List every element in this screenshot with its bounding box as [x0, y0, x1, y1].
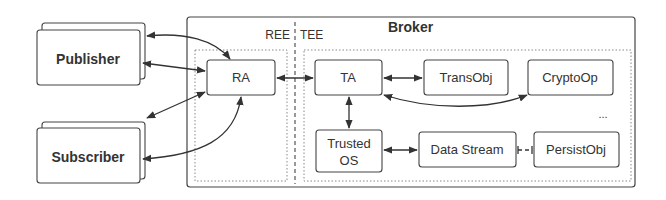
tee-label: TEE	[300, 28, 323, 42]
persistobj-node: PersistObj	[534, 132, 619, 167]
cryptoop-label: CryptoOp	[542, 70, 598, 85]
ta-node: TA	[315, 60, 382, 95]
edge-subscriber-ra	[147, 92, 205, 118]
edge-publisher-ra	[143, 63, 205, 71]
trusted-os-label-line1: Trusted	[327, 136, 371, 151]
data-stream-label: Data Stream	[431, 142, 504, 157]
publisher-node: Publisher	[37, 23, 145, 85]
subscriber-node: Subscriber	[37, 122, 145, 183]
edge-subscriber-ra-curved	[143, 97, 241, 159]
trusted-os-label-line2: OS	[340, 153, 359, 168]
transobj-label: TransObj	[440, 70, 493, 85]
edge-ta-cryptoop	[384, 95, 527, 106]
ree-label: REE	[265, 28, 290, 42]
subscriber-label: Subscriber	[51, 149, 125, 165]
edge-publisher-ra-curved	[147, 35, 230, 59]
cryptoop-node: CryptoOp	[528, 60, 613, 95]
publisher-label: Publisher	[56, 51, 120, 67]
ta-label: TA	[340, 70, 356, 85]
ra-label: RA	[232, 70, 250, 85]
trusted-os-node: Trusted OS	[316, 130, 382, 172]
ra-node: RA	[207, 60, 275, 95]
transobj-node: TransObj	[424, 60, 508, 95]
data-stream-node: Data Stream	[419, 132, 516, 167]
persistobj-label: PersistObj	[546, 142, 606, 157]
broker-title: Broker	[388, 19, 434, 35]
architecture-diagram: Publisher Subscriber Broker REE TEE RA T…	[0, 0, 666, 200]
more-ellipsis: ...	[598, 108, 607, 120]
